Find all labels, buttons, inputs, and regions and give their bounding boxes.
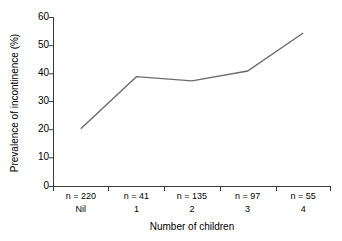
x-category-label: 3 [220, 203, 276, 216]
x-category-label: Nil [53, 203, 109, 216]
x-category-group: n = 41 1 [109, 190, 165, 224]
x-category-count: n = 135 [164, 190, 220, 203]
x-category-group: n = 220 Nil [53, 190, 109, 224]
chart-figure: Prevalence of incontinence (%) 60 50 40 … [0, 0, 342, 241]
x-category-count: n = 41 [109, 190, 165, 203]
x-category-group: n = 135 2 [164, 190, 220, 224]
x-category-label: 2 [164, 203, 220, 216]
x-axis-title: Number of children [53, 221, 331, 233]
x-category-group: n = 55 4 [275, 190, 331, 224]
x-category-count: n = 220 [53, 190, 109, 203]
x-category-count: n = 97 [220, 190, 276, 203]
x-axis-category-labels: n = 220 Nil n = 41 1 n = 135 2 n = 97 3 … [53, 190, 331, 224]
x-category-label: 4 [275, 203, 331, 216]
x-category-group: n = 97 3 [220, 190, 276, 224]
x-category-label: 1 [109, 203, 165, 216]
y-axis-ticks [49, 18, 53, 187]
x-category-count: n = 55 [275, 190, 331, 203]
data-series-line [81, 33, 303, 129]
